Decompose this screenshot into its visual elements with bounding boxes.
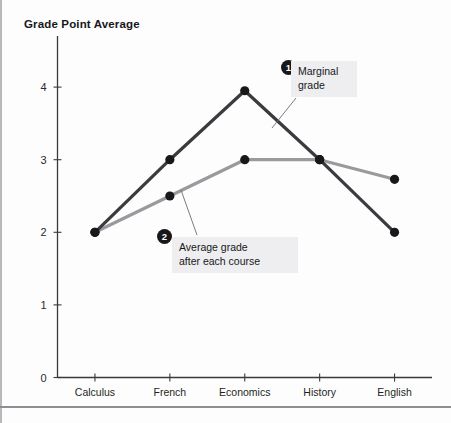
- y-tick-label: 4: [40, 81, 46, 93]
- x-tick-label: English: [377, 386, 412, 398]
- data-point-average-grade-after-each-course-french: [165, 191, 174, 200]
- leader-line-marginal-grade: [272, 98, 296, 128]
- callout-leader-lines: [181, 98, 296, 235]
- chart-series-layer: [90, 86, 399, 237]
- data-point-marginal-grade-english: [390, 228, 399, 237]
- leader-line-average-grade: [181, 190, 197, 235]
- data-point-average-grade-after-each-course-economics: [240, 155, 249, 164]
- y-tick-label: 3: [40, 154, 46, 166]
- x-tick-label: French: [154, 386, 187, 398]
- x-tick-label: History: [303, 386, 336, 398]
- y-tick-label: 0: [40, 372, 46, 384]
- x-tick-label: Calculus: [75, 386, 115, 398]
- y-tick-label: 1: [40, 299, 46, 311]
- series-line-average-grade-after-each-course: [95, 160, 395, 233]
- y-axis-ticks: 01234: [40, 81, 61, 383]
- data-point-marginal-grade-economics: [240, 86, 249, 95]
- callout-marker-2: 2: [157, 229, 172, 244]
- callout-average-grade: Average grade after each course: [172, 237, 298, 273]
- callout-marginal-grade: Marginal grade: [291, 61, 357, 97]
- data-point-average-grade-after-each-course-calculus: [90, 228, 99, 237]
- chart-figure: Grade Point Average 01234 CalculusFrench…: [0, 0, 451, 423]
- line-chart-plot: 01234 CalculusFrenchEconomicsHistoryEngl…: [0, 0, 451, 423]
- data-point-average-grade-after-each-course-english: [390, 175, 399, 184]
- data-point-marginal-grade-french: [165, 155, 174, 164]
- y-tick-label: 2: [40, 226, 46, 238]
- x-tick-label: Economics: [219, 386, 270, 398]
- data-point-average-grade-after-each-course-history: [315, 155, 324, 164]
